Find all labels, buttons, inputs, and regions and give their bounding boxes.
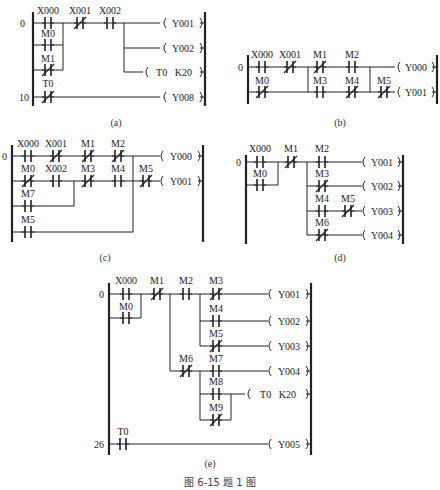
svg-text:M8: M8 <box>209 376 223 387</box>
svg-text:0: 0 <box>238 62 243 73</box>
svg-text:(e): (e) <box>204 458 215 470</box>
svg-text:M2: M2 <box>315 143 329 154</box>
svg-text:M5: M5 <box>139 163 153 174</box>
svg-text:X002: X002 <box>45 163 67 174</box>
svg-text:M0: M0 <box>21 163 35 174</box>
svg-text:26: 26 <box>94 439 104 450</box>
svg-text:M5: M5 <box>21 214 35 225</box>
svg-text:M0: M0 <box>41 28 55 39</box>
svg-text:M1: M1 <box>41 53 55 64</box>
svg-text:T0: T0 <box>117 426 128 437</box>
svg-text:0: 0 <box>2 151 7 162</box>
svg-text:X001: X001 <box>69 5 91 16</box>
svg-text:Y003: Y003 <box>371 206 393 217</box>
svg-text:M3: M3 <box>315 168 329 179</box>
svg-text:Y004: Y004 <box>371 230 393 241</box>
svg-text:M1: M1 <box>313 49 327 60</box>
svg-text:M7: M7 <box>209 353 223 364</box>
svg-text:Y003: Y003 <box>278 341 300 352</box>
svg-text:M1: M1 <box>81 138 95 149</box>
svg-text:Y002: Y002 <box>278 316 300 327</box>
svg-text:Y004: Y004 <box>278 366 300 377</box>
svg-text:T0 K20: T0 K20 <box>156 67 192 78</box>
svg-text:Y001: Y001 <box>371 157 393 168</box>
svg-text:X000: X000 <box>115 275 137 286</box>
svg-text:(c): (c) <box>99 252 110 264</box>
svg-text:T0: T0 <box>42 78 53 89</box>
svg-text:M6: M6 <box>179 353 193 364</box>
svg-text:Y001: Y001 <box>170 176 192 187</box>
svg-text:M5: M5 <box>377 75 391 86</box>
svg-text:Y001: Y001 <box>278 289 300 300</box>
svg-text:Y001: Y001 <box>172 18 194 29</box>
svg-text:M3: M3 <box>81 163 95 174</box>
svg-text:M0: M0 <box>253 168 267 179</box>
svg-text:10: 10 <box>19 92 29 103</box>
svg-text:Y002: Y002 <box>172 43 194 54</box>
svg-text:T0 K20: T0 K20 <box>260 389 296 400</box>
svg-text:Y000: Y000 <box>405 62 427 73</box>
svg-text:X000: X000 <box>251 49 273 60</box>
svg-text:M2: M2 <box>111 138 125 149</box>
svg-text:M0: M0 <box>255 75 269 86</box>
svg-text:M9: M9 <box>209 402 223 413</box>
svg-text:M4: M4 <box>345 75 359 86</box>
svg-text:Y002: Y002 <box>371 181 393 192</box>
svg-text:0: 0 <box>99 289 104 300</box>
svg-text:X002: X002 <box>99 5 121 16</box>
svg-text:0: 0 <box>236 157 241 168</box>
svg-text:(b): (b) <box>334 117 346 129</box>
svg-text:M0: M0 <box>119 301 133 312</box>
svg-text:M5: M5 <box>341 193 355 204</box>
svg-text:M4: M4 <box>315 193 329 204</box>
svg-text:M5: M5 <box>209 328 223 339</box>
svg-text:M2: M2 <box>345 49 359 60</box>
svg-text:M1: M1 <box>284 143 298 154</box>
svg-text:Y008: Y008 <box>172 92 194 103</box>
svg-text:M4: M4 <box>209 303 223 314</box>
svg-text:Y005: Y005 <box>278 439 300 450</box>
svg-text:(d): (d) <box>334 252 346 264</box>
svg-text:X000: X000 <box>17 138 39 149</box>
svg-text:(a): (a) <box>110 117 121 129</box>
svg-text:M7: M7 <box>21 188 35 199</box>
diagram-d-labels: 0 X000 M1 M2 M0 M3 M4 M5 M6 Y001 Y002 Y0… <box>236 143 393 264</box>
svg-text:Y000: Y000 <box>170 151 192 162</box>
svg-text:M1: M1 <box>150 275 164 286</box>
svg-text:X000: X000 <box>37 5 59 16</box>
svg-text:M3: M3 <box>209 275 223 286</box>
svg-text:X001: X001 <box>45 138 67 149</box>
svg-text:M6: M6 <box>315 217 329 228</box>
svg-text:X000: X000 <box>249 143 271 154</box>
figure-caption: 图 6-15 题 1 图 <box>184 477 256 488</box>
svg-text:0: 0 <box>20 18 25 29</box>
svg-text:M4: M4 <box>111 163 125 174</box>
svg-text:X001: X001 <box>279 49 301 60</box>
svg-text:M2: M2 <box>179 275 193 286</box>
svg-text:M3: M3 <box>313 75 327 86</box>
ladder-diagrams-figure: 0 10 X000 X001 X002 M0 M1 T0 Y001 Y002 T… <box>0 0 440 490</box>
svg-text:Y001: Y001 <box>405 87 427 98</box>
